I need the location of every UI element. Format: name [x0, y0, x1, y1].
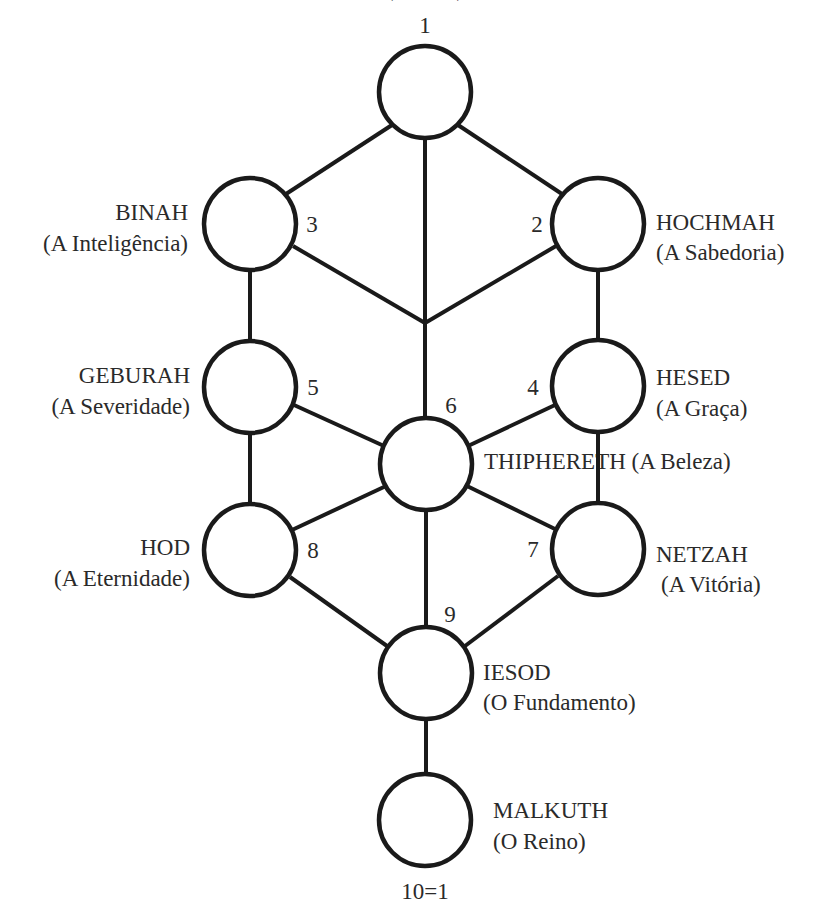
sephirah-10-malkuth	[379, 774, 471, 866]
node-7-number: 7	[527, 537, 539, 562]
node-10-number: 10=1	[401, 879, 448, 904]
path-5-6	[294, 405, 384, 446]
path-6-8	[292, 486, 386, 530]
top-cut-label: (. . . . . .)	[386, 0, 465, 1]
node-9-number: 9	[444, 602, 456, 627]
node-9-name: IESOD	[483, 660, 551, 685]
tree-of-life-diagram: (. . . . . .) THIPHERETH (A Beleza)	[0, 0, 825, 912]
path-3-junction	[293, 246, 425, 323]
node-8-meaning: (A Eternidade)	[54, 566, 190, 591]
path-2-junction	[425, 246, 556, 323]
node-3-meaning: (A Inteligência)	[43, 231, 188, 256]
node-9-meaning: (O Fundamento)	[483, 690, 636, 715]
node-8-name: HOD	[140, 535, 190, 560]
node-4-name: HESED	[656, 365, 730, 390]
node-5-name: GEBURAH	[79, 363, 190, 388]
node-4-number: 4	[527, 375, 539, 400]
node-8-number: 8	[307, 538, 319, 563]
node-5-meaning: (A Severidade)	[51, 394, 190, 419]
node-4-meaning: (A Graça)	[656, 396, 747, 421]
node-7-meaning: (A Vitória)	[661, 572, 761, 597]
node-2-name: HOCHMAH	[656, 210, 775, 235]
sephirah-1	[379, 46, 471, 138]
path-8-9	[290, 577, 387, 646]
sephirah-3-binah	[204, 178, 296, 270]
node-7-name: NETZAH	[656, 542, 748, 567]
node-3-name: BINAH	[115, 200, 188, 225]
sephirah-4-hesed	[552, 340, 644, 432]
sephirah-7-netzah	[552, 503, 644, 595]
sephirah-5-geburah	[204, 341, 296, 433]
node-2-number: 2	[531, 212, 543, 237]
sephirah-9-iesod	[380, 627, 472, 719]
node-10-name: MALKUTH	[493, 798, 608, 823]
node-6-number: 6	[445, 393, 457, 418]
node-10-meaning: (O Reino)	[493, 829, 586, 854]
sephirah-2-hochmah	[552, 178, 644, 270]
node-1-number: 1	[419, 13, 431, 38]
sephirah-8-hod	[204, 504, 296, 596]
sephirah-6-thiphereth	[380, 418, 472, 510]
path-7-9	[465, 576, 558, 646]
path-6-7	[467, 486, 557, 530]
path-1-3	[286, 125, 392, 194]
path-4-6	[468, 405, 555, 446]
node-6-title: THIPHERETH (A Beleza)	[484, 449, 731, 474]
node-5-number: 5	[307, 375, 319, 400]
node-2-meaning: (A Sabedoria)	[656, 240, 784, 265]
node-3-number: 3	[306, 212, 318, 237]
path-1-2	[458, 125, 562, 194]
